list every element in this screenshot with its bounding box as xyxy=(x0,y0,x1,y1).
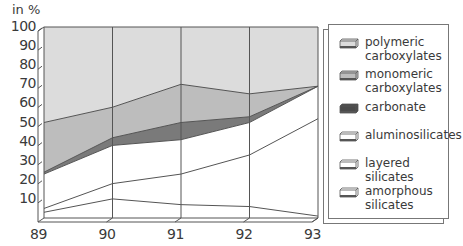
legend-label: amorphoussilicates xyxy=(365,184,449,212)
floor-tick-93 xyxy=(312,218,318,222)
legend-swatch-icon xyxy=(339,70,359,81)
x-tick-label: 91 xyxy=(167,226,184,242)
x-tick-label: 92 xyxy=(236,226,253,242)
y-tick-label: 90 xyxy=(19,37,36,53)
legend-item: aluminosilicates xyxy=(339,128,449,142)
legend-label: monomericcarboxylates xyxy=(365,67,449,95)
floor-tick-89 xyxy=(38,218,44,222)
y-tick-label: 60 xyxy=(19,94,36,110)
y-tick-label: 70 xyxy=(19,75,36,91)
y-tick-label: 30 xyxy=(19,152,36,168)
legend-label: aluminosilicates xyxy=(365,128,449,142)
floor-tick-91 xyxy=(175,218,181,222)
y-tick-60 xyxy=(38,104,42,107)
legend-item: amorphoussilicates xyxy=(339,184,449,212)
floor-tick-92 xyxy=(244,218,250,222)
y-tick-90 xyxy=(38,47,42,50)
legend-item: layered silicates xyxy=(339,156,449,184)
legend-swatch-icon xyxy=(339,159,359,170)
legend: polymericcarboxylatesmonomericcarboxylat… xyxy=(328,24,449,219)
y-tick-label: 20 xyxy=(19,171,36,187)
legend-item: polymericcarboxylates xyxy=(339,35,449,63)
x-tick-label: 89 xyxy=(30,226,47,242)
legend-swatch-icon xyxy=(339,103,359,114)
y-tick-100 xyxy=(38,28,42,31)
legend-label: polymericcarboxylates xyxy=(365,35,449,63)
y-tick-20 xyxy=(38,181,42,184)
legend-swatch-icon xyxy=(339,38,359,49)
y-tick-30 xyxy=(38,162,42,165)
y-tick-label: 40 xyxy=(19,133,36,149)
y-tick-70 xyxy=(38,85,42,88)
y-tick-label: 80 xyxy=(19,56,36,72)
floor-tick-90 xyxy=(107,218,113,222)
x-tick-label: 93 xyxy=(304,226,321,242)
y-tick-label: 50 xyxy=(19,114,36,130)
legend-label: carbonate xyxy=(365,100,449,114)
legend-label: layered silicates xyxy=(365,156,449,184)
y-tick-label: 100 xyxy=(11,18,36,34)
y-axis-unit: in % xyxy=(12,2,40,17)
x-tick-label: 90 xyxy=(99,226,116,242)
legend-item: carbonate xyxy=(339,100,449,114)
y-tick-50 xyxy=(38,124,42,127)
y-tick-10 xyxy=(38,200,42,203)
legend-swatch-icon xyxy=(339,131,359,142)
legend-swatch-icon xyxy=(339,187,359,198)
y-tick-label: 10 xyxy=(19,190,36,206)
legend-item: monomericcarboxylates xyxy=(339,67,449,95)
y-tick-80 xyxy=(38,66,42,69)
y-tick-40 xyxy=(38,143,42,146)
